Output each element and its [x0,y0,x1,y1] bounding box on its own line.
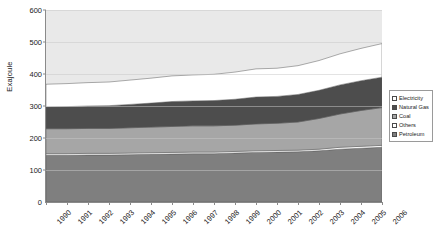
legend-item-natural-gas[interactable]: Natural Gas [392,103,429,111]
x-tick-mark-1998 [214,202,215,205]
legend-item-label: Electricity [399,95,423,101]
x-tick-label-2002: 2002 [307,208,325,226]
legend-swatch-icon [392,96,397,101]
y-tick-label-600: 600 [29,6,42,15]
x-tick-mark-2003 [319,202,320,205]
x-tick-mark-1994 [130,202,131,205]
plot-svg [46,10,382,202]
y-tick-label-300: 300 [29,102,42,111]
y-tick-mark-300 [43,106,46,107]
y-tick-mark-400 [43,74,46,75]
legend-swatch-icon [392,114,397,119]
x-tick-mark-1991 [67,202,68,205]
chart-legend: ElectricityNatural GasCoalOthersPetroleu… [389,90,433,142]
legend-item-label: Others [399,122,416,128]
legend-swatch-icon [392,105,397,110]
x-tick-label-1992: 1992 [97,208,115,226]
y-axis-title: Exajoule [5,42,14,112]
x-tick-label-1996: 1996 [181,208,199,226]
legend-swatch-icon [392,123,397,128]
y-tick-mark-600 [43,10,46,11]
stacked-area-chart: Exajoule 100200300400500600 199019911992… [0,0,448,248]
x-tick-mark-1990 [46,202,47,205]
area-series-petroleum [46,147,382,202]
x-tick-label-1995: 1995 [160,208,178,226]
x-tick-label-1993: 1993 [118,208,136,226]
x-tick-mark-2002 [298,202,299,205]
plot-area: 100200300400500600 199019911992199319941… [45,10,382,203]
legend-item-label: Petroleum [399,131,425,137]
x-tick-label-1990: 1990 [55,208,73,226]
x-tick-mark-1996 [172,202,173,205]
x-tick-label-1999: 1999 [244,208,262,226]
y-tick-mark-100 [43,170,46,171]
y-tick-label-400: 400 [29,70,42,79]
x-tick-mark-2000 [256,202,257,205]
x-tick-mark-1995 [151,202,152,205]
x-tick-mark-1997 [193,202,194,205]
legend-item-coal[interactable]: Coal [392,112,429,120]
y-tick-label-500: 500 [29,38,42,47]
legend-item-electricity[interactable]: Electricity [392,94,429,102]
x-tick-mark-2005 [361,202,362,205]
legend-swatch-icon [392,132,397,137]
x-tick-label-1998: 1998 [223,208,241,226]
x-tick-label-2001: 2001 [286,208,304,226]
x-tick-label-2000: 2000 [265,208,283,226]
legend-item-label: Natural Gas [399,104,429,110]
x-tick-mark-1992 [88,202,89,205]
x-tick-mark-1993 [109,202,110,205]
x-tick-label-2006: 2006 [391,208,409,226]
legend-item-others[interactable]: Others [392,121,429,129]
x-tick-label-2005: 2005 [370,208,388,226]
x-tick-mark-2004 [340,202,341,205]
x-tick-label-2003: 2003 [328,208,346,226]
y-tick-label-100: 100 [29,166,42,175]
y-tick-mark-200 [43,138,46,139]
legend-item-label: Coal [399,113,411,119]
x-tick-label-1991: 1991 [76,208,94,226]
x-tick-mark-1999 [235,202,236,205]
x-tick-mark-2001 [277,202,278,205]
legend-item-petroleum[interactable]: Petroleum [392,130,429,138]
y-axis-zero-label: 0 [38,198,42,207]
x-tick-label-2004: 2004 [349,208,367,226]
x-tick-label-1997: 1997 [202,208,220,226]
x-tick-label-1994: 1994 [139,208,157,226]
y-tick-label-200: 200 [29,134,42,143]
x-tick-mark-2006 [382,202,383,205]
y-tick-mark-500 [43,42,46,43]
